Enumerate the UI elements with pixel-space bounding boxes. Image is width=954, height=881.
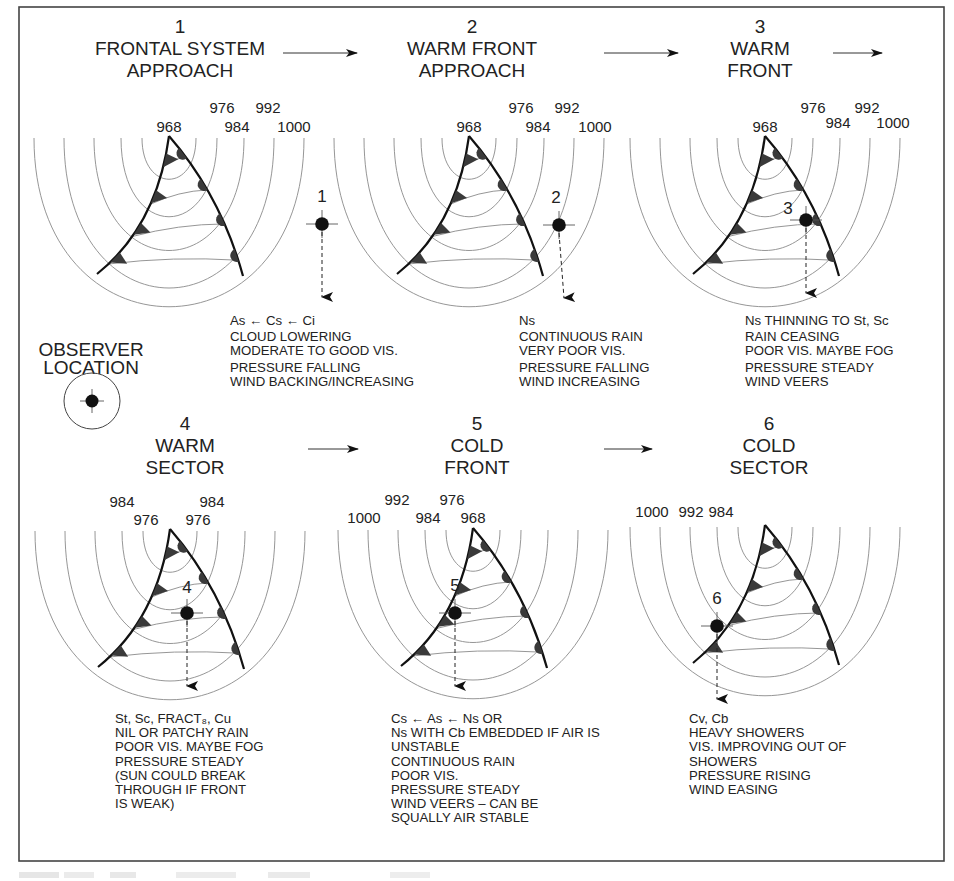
observer-position-label: 6 (712, 589, 721, 608)
weather-description-line: PRESSURE STEADY (745, 360, 874, 375)
isobar-label: 1000 (277, 118, 310, 135)
observer-dot-icon (80, 389, 104, 413)
cold-front-triangle-icon (410, 253, 427, 264)
weather-description-line: Ns THINNING TO St, Sc (745, 313, 889, 328)
cold-front-triangle-icon (110, 253, 127, 264)
weather-description-line: POOR VIS. MAYBE FOG (115, 739, 264, 754)
cold-front-triangle-icon (706, 253, 723, 264)
panel-number: 6 (764, 413, 775, 434)
isobar-label: 976 (800, 99, 825, 116)
weather-description-line: (SUN COULD BREAK (115, 768, 246, 783)
panel-title-line: COLD (743, 435, 796, 456)
panel-title-line: APPROACH (419, 60, 526, 81)
panels: 1FRONTAL SYSTEMAPPROACH96897698499210001… (34, 16, 910, 825)
weather-description-line: St, Sc, FRACT₈, Cu (115, 711, 231, 726)
isobar-line (121, 138, 217, 217)
cold-front-line (693, 525, 765, 663)
weather-description-line: WIND BACKING/INCREASING (230, 374, 414, 389)
weather-description-line: POOR VIS. MAYBE FOG (745, 343, 894, 358)
isobar-label: 976 (209, 99, 234, 116)
observer-position-label: 4 (182, 578, 191, 597)
panel-2: 2WARM FRONTAPPROACH96897698499210002NsCO… (334, 16, 649, 389)
cold-front-line (401, 528, 473, 666)
weather-description-line: CONTINUOUS RAIN (519, 329, 643, 344)
isobar-line (421, 138, 517, 217)
panel-4: 4WARMSECTOR9849769849764St, Sc, FRACT₈, … (35, 413, 305, 811)
isobar-label: 984 (415, 509, 440, 526)
cold-front-triangle-icon (414, 645, 431, 656)
panel-number: 1 (175, 16, 186, 37)
cold-front-line (693, 136, 765, 274)
frontal-system-diagram: OBSERVER LOCATION 1FRONTAL SYSTEMAPPROAC… (0, 0, 954, 881)
isobar-label: 1000 (347, 509, 380, 526)
isobar-label: 1000 (578, 118, 611, 135)
isobar-label: 984 (525, 118, 550, 135)
panel-title-line: WARM (155, 435, 214, 456)
weather-description-line: Ns (519, 313, 536, 328)
panel-3: 3WARMFRONT96897698499210003Ns THINNING T… (630, 16, 910, 389)
isobar-line (705, 648, 835, 653)
observer-location-legend: OBSERVER LOCATION (38, 339, 143, 429)
panel-title-line: WARM FRONT (407, 38, 538, 59)
isobar-line (413, 651, 543, 656)
isobar-line (409, 259, 539, 264)
panel-6: 6COLDSECTOR10009929846Cv, CbHEAVY SHOWER… (630, 413, 900, 797)
panel-title-line: FRONT (444, 457, 510, 478)
isobar-label: 976 (185, 511, 210, 528)
weather-description-line: SHOWERS (689, 754, 757, 769)
panel-title-line: WARM (730, 38, 789, 59)
isobar-line (110, 652, 240, 657)
isobar-label: 968 (156, 118, 181, 135)
panel-number: 3 (755, 16, 766, 37)
diagram-canvas: OBSERVER LOCATION 1FRONTAL SYSTEMAPPROAC… (0, 0, 954, 881)
observer-position-label: 3 (783, 199, 792, 218)
weather-description-line: UNSTABLE (391, 739, 460, 754)
isobar-label: 984 (224, 118, 249, 135)
weather-description-line: IS WEAK) (115, 796, 174, 811)
weather-description-line: PRESSURE RISING (689, 768, 811, 783)
isobar-label: 976 (508, 99, 533, 116)
isobar-label: 976 (439, 491, 464, 508)
isobar-label: 984 (708, 503, 733, 520)
isobar-label: 968 (460, 509, 485, 526)
weather-description-line: VIS. IMPROVING OUT OF (689, 739, 846, 754)
sequence-arrows (283, 53, 882, 449)
observer-position-label: 2 (551, 188, 560, 207)
isobar-label: 992 (678, 503, 703, 520)
isobar-line (717, 138, 813, 217)
panel-5: 5COLDFRONT99297610009849685Cs ← As ← Ns … (338, 413, 608, 825)
panel-title-line: FRONT (727, 60, 793, 81)
cold-front-triangle-icon (111, 646, 128, 657)
isobar-label: 992 (384, 491, 409, 508)
isobar-label: 992 (255, 99, 280, 116)
panel-title-line: SECTOR (146, 457, 225, 478)
weather-description-line: CONTINUOUS RAIN (391, 754, 515, 769)
weather-description-line: POOR VIS. (391, 768, 458, 783)
isobar-label: 968 (752, 118, 777, 135)
weather-description-line: WIND VEERS – CAN BE (391, 796, 538, 811)
isobar-label: 992 (554, 99, 579, 116)
weather-description-line: PRESSURE FALLING (230, 360, 360, 375)
weather-description-line: Cv, Cb (689, 711, 728, 726)
isobar-line (717, 527, 813, 606)
panel-number: 2 (467, 16, 478, 37)
observer-position-label: 5 (450, 576, 459, 595)
isobar-label: 984 (825, 114, 850, 131)
weather-description-line: RAIN CEASING (745, 329, 840, 344)
weather-description-line: VERY POOR VIS. (519, 343, 626, 358)
isobar-label: 976 (133, 511, 158, 528)
weather-description-line: NIL OR PATCHY RAIN (115, 725, 249, 740)
panel-title-line: SECTOR (730, 457, 809, 478)
isobar-label: 1000 (876, 114, 909, 131)
weather-description-line: Ns WITH Cb EMBEDDED IF AIR IS (391, 725, 600, 740)
weather-description-line: THROUGH IF FRONT (115, 782, 246, 797)
weather-description-line: HEAVY SHOWERS (689, 725, 804, 740)
isobar-line (425, 530, 521, 609)
cropped-caption-fragment (19, 872, 430, 878)
panel-number: 4 (180, 413, 191, 434)
weather-description-line: WIND INCREASING (519, 374, 640, 389)
cold-front-line (98, 529, 170, 667)
observer-position-label: 1 (317, 187, 326, 206)
panel-title-line: COLD (451, 435, 504, 456)
legend-title-line-2: LOCATION (43, 357, 139, 378)
